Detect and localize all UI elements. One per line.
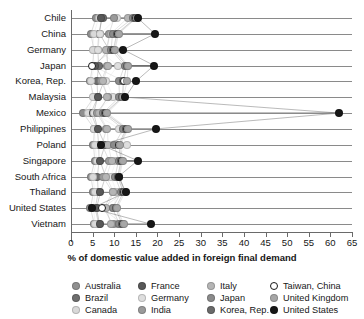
gridline [71, 113, 352, 114]
legend-item-korea-rep[interactable]: Korea, Rep. [207, 304, 269, 316]
legend-item-india[interactable]: India [138, 304, 189, 316]
data-point [115, 173, 123, 181]
legend-swatch-icon [270, 306, 278, 314]
y-axis-label-malaysia: Malaysia [29, 92, 67, 102]
data-point [111, 46, 119, 54]
x-tick-label: 40 [239, 237, 250, 248]
data-point [97, 141, 105, 149]
x-tick-label: 30 [195, 237, 206, 248]
y-axis-line [71, 10, 72, 242]
legend-swatch-icon [207, 306, 215, 314]
legend-swatch-icon [72, 306, 80, 314]
y-axis-label-germany: Germany [27, 45, 66, 55]
x-tick-label: 50 [282, 237, 293, 248]
x-tick-label: 5 [90, 237, 95, 248]
gridline [71, 129, 352, 130]
legend-item-brazil[interactable]: Brazil [72, 292, 121, 304]
legend-swatch-icon [207, 282, 215, 290]
legend-label: United States [283, 305, 338, 315]
x-tick-label: 20 [152, 237, 163, 248]
x-tick-label: 35 [217, 237, 228, 248]
data-point [96, 220, 104, 228]
legend-swatch-icon [207, 294, 215, 302]
data-point [107, 220, 115, 228]
x-tick-label: 45 [260, 237, 271, 248]
x-tick-label: 60 [325, 237, 336, 248]
y-axis-label-south-africa: South Africa [15, 172, 66, 182]
y-axis-labels: ChileChinaGermanyJapanKorea, Rep.Malaysi… [0, 0, 71, 232]
legend-label: Taiwan, China [283, 281, 341, 291]
x-tick-label: 0 [68, 237, 73, 248]
data-point [94, 125, 102, 133]
x-tick-label: 55 [303, 237, 314, 248]
connector-lines [71, 10, 352, 232]
x-tick-label: 25 [174, 237, 185, 248]
data-point [119, 157, 127, 165]
data-point [103, 93, 111, 101]
legend-label: Korea, Rep. [220, 305, 269, 315]
data-point [120, 220, 128, 228]
data-point [103, 109, 111, 117]
y-axis-label-poland: Poland [36, 140, 66, 150]
legend-item-united-states[interactable]: United States [270, 304, 348, 316]
data-point [151, 30, 159, 38]
legend-column: FranceGermanyIndia [138, 280, 189, 316]
y-axis-label-japan: Japan [40, 61, 66, 71]
legend-item-taiwan-china[interactable]: Taiwan, China [270, 280, 348, 292]
legend-item-japan[interactable]: Japan [207, 292, 269, 304]
data-point [150, 62, 158, 70]
legend-item-italy[interactable]: Italy [207, 280, 269, 292]
y-axis-label-mexico: Mexico [36, 108, 66, 118]
x-axis-line [71, 232, 352, 233]
legend-swatch-icon [138, 282, 146, 290]
y-axis-label-china: China [41, 29, 66, 39]
legend-swatch-icon [138, 306, 146, 314]
chart-container: ChileChinaGermanyJapanKorea, Rep.Malaysi… [0, 0, 364, 319]
legend-label: Italy [220, 281, 237, 291]
legend-swatch-icon [270, 294, 278, 302]
legend-label: Brazil [85, 293, 108, 303]
data-point [134, 157, 142, 165]
legend-column: ItalyJapanKorea, Rep. [207, 280, 269, 316]
legend-label: Japan [220, 293, 245, 303]
data-point [96, 157, 104, 165]
data-point [123, 77, 131, 85]
data-point [88, 62, 96, 70]
legend-label: United Kingdom [283, 293, 348, 303]
data-point [89, 173, 97, 181]
legend-label: France [151, 281, 180, 291]
legend-swatch-icon [138, 294, 146, 302]
data-point [99, 77, 107, 85]
y-axis-label-united-states: United States [9, 203, 66, 213]
legend-label: Australia [85, 281, 121, 291]
y-axis-label-singapore: Singapore [23, 156, 66, 166]
x-axis-title: % of domestic value added in foreign fin… [0, 252, 364, 263]
data-point [88, 204, 96, 212]
legend-item-germany[interactable]: Germany [138, 292, 189, 304]
gridline [71, 81, 352, 82]
legend-item-canada[interactable]: Canada [72, 304, 121, 316]
data-point [97, 14, 105, 22]
legend-item-france[interactable]: France [138, 280, 189, 292]
data-point [115, 30, 123, 38]
data-point [96, 30, 104, 38]
legend-swatch-icon [72, 282, 80, 290]
y-axis-label-vietnam: Vietnam [31, 219, 66, 229]
legend-item-united-kingdom[interactable]: United Kingdom [270, 292, 348, 304]
data-point [87, 77, 95, 85]
legend-label: Canada [85, 305, 117, 315]
x-tick-label: 15 [131, 237, 142, 248]
data-point [102, 173, 110, 181]
x-tick-label: 65 [347, 237, 358, 248]
data-point [335, 109, 343, 117]
data-point [152, 125, 160, 133]
data-point [121, 93, 129, 101]
legend-column: Taiwan, ChinaUnited KingdomUnited States [270, 280, 348, 316]
legend-item-australia[interactable]: Australia [72, 280, 121, 292]
data-point [96, 188, 104, 196]
data-point [110, 14, 118, 22]
y-axis-label-chile: Chile [44, 13, 66, 23]
data-point [147, 220, 155, 228]
legend-swatch-icon [270, 282, 278, 290]
legend-column: AustraliaBrazilCanada [72, 280, 121, 316]
